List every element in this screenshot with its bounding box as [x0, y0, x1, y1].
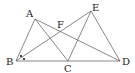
- labels: A B C D E F: [6, 2, 130, 73]
- point-label-e: E: [92, 2, 99, 13]
- point-label-d: D: [122, 56, 130, 67]
- point-label-f: F: [57, 19, 64, 30]
- point-label-a: A: [25, 8, 34, 19]
- geometry-diagram: A B C D E F: [0, 0, 135, 73]
- angle-mark-dot-lower: [23, 58, 25, 60]
- point-label-c: C: [64, 63, 72, 73]
- angle-mark-dot-upper: [20, 55, 22, 57]
- point-label-b: B: [6, 56, 13, 67]
